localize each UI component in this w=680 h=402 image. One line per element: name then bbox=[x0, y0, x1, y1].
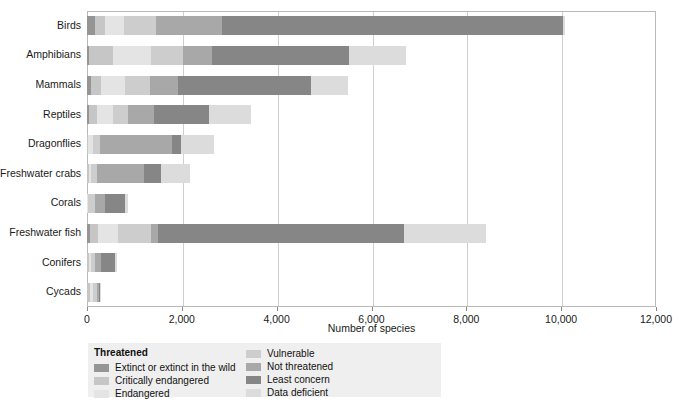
legend-item-label: Least concern bbox=[267, 374, 330, 386]
bar-segment[interactable] bbox=[209, 105, 252, 124]
bar-segment[interactable] bbox=[172, 135, 181, 154]
legend-item-label: Not threatened bbox=[267, 361, 333, 373]
bar-segment[interactable] bbox=[91, 76, 101, 95]
y-axis-label: Cycads bbox=[0, 285, 81, 297]
bar-segment[interactable] bbox=[100, 283, 102, 302]
bar-row[interactable] bbox=[87, 135, 214, 154]
y-axis-label: Freshwater fish bbox=[0, 226, 81, 238]
bar-segment[interactable] bbox=[150, 76, 178, 95]
y-axis-label: Freshwater crabs bbox=[0, 167, 81, 179]
legend-item-label: Extinct or extinct in the wild bbox=[115, 362, 236, 374]
legend-item-label: Data deficient bbox=[267, 387, 328, 399]
bar-segment[interactable] bbox=[95, 194, 104, 213]
bar-segment[interactable] bbox=[154, 105, 209, 124]
bar-segment[interactable] bbox=[563, 16, 565, 35]
legend-item[interactable]: Extinct or extinct in the wild bbox=[94, 361, 254, 374]
legend-item[interactable]: Vulnerable bbox=[246, 347, 436, 360]
y-axis-label: Corals bbox=[0, 196, 81, 208]
legend-swatch-icon bbox=[94, 364, 109, 372]
bar-segment[interactable] bbox=[404, 224, 486, 243]
legend-items-right: VulnerableNot threatenedLeast concernDat… bbox=[246, 347, 436, 399]
x-tick-mark bbox=[466, 307, 467, 311]
bar-segment[interactable] bbox=[95, 16, 105, 35]
bar-segment[interactable] bbox=[124, 16, 156, 35]
bar-segment[interactable] bbox=[118, 224, 151, 243]
bar-row[interactable] bbox=[87, 224, 486, 243]
legend-item[interactable]: Not threatened bbox=[246, 360, 436, 373]
bar-segment[interactable] bbox=[90, 224, 98, 243]
bar-segment[interactable] bbox=[100, 135, 172, 154]
x-tick-mark bbox=[182, 307, 183, 311]
y-axis-label: Reptiles bbox=[0, 108, 81, 120]
bar-segment[interactable] bbox=[97, 105, 113, 124]
bar-segment[interactable] bbox=[151, 224, 158, 243]
bar-row[interactable] bbox=[87, 16, 565, 35]
legend-swatch-icon bbox=[94, 390, 109, 398]
bar-segment[interactable] bbox=[349, 46, 406, 65]
bar-row[interactable] bbox=[87, 283, 101, 302]
y-axis-label: Dragonflies bbox=[0, 137, 81, 149]
bars-layer bbox=[87, 11, 656, 307]
bar-segment[interactable] bbox=[311, 76, 348, 95]
bar-row[interactable] bbox=[87, 76, 348, 95]
bar-segment[interactable] bbox=[101, 76, 125, 95]
bar-segment[interactable] bbox=[89, 105, 98, 124]
y-axis-label: Amphibians bbox=[0, 48, 81, 60]
legend-swatch-icon bbox=[246, 350, 261, 358]
legend-item[interactable]: Critically endangered bbox=[94, 374, 254, 387]
bar-segment[interactable] bbox=[158, 224, 404, 243]
x-tick-mark bbox=[277, 307, 278, 311]
legend: Threatened Extinct or extinct in the wil… bbox=[88, 343, 441, 397]
legend-swatch-icon bbox=[94, 377, 109, 385]
bar-segment[interactable] bbox=[222, 16, 563, 35]
bar-segment[interactable] bbox=[105, 194, 125, 213]
bar-segment[interactable] bbox=[212, 46, 350, 65]
legend-items-left: Extinct or extinct in the wildCritically… bbox=[94, 361, 254, 400]
legend-item[interactable]: Endangered bbox=[94, 387, 254, 400]
legend-swatch-icon bbox=[246, 363, 261, 371]
legend-title: Threatened bbox=[94, 347, 254, 359]
bar-segment[interactable] bbox=[88, 194, 95, 213]
bar-segment[interactable] bbox=[156, 16, 221, 35]
legend-swatch-icon bbox=[246, 389, 261, 397]
x-tick-mark bbox=[561, 307, 562, 311]
bar-segment[interactable] bbox=[183, 46, 211, 65]
bar-segment[interactable] bbox=[93, 135, 100, 154]
bar-segment[interactable] bbox=[151, 46, 183, 65]
legend-column-other: VulnerableNot threatenedLeast concernDat… bbox=[246, 347, 436, 399]
x-tick-mark bbox=[372, 307, 373, 311]
bar-segment[interactable] bbox=[87, 16, 95, 35]
bar-segment[interactable] bbox=[125, 76, 150, 95]
bar-segment[interactable] bbox=[178, 76, 311, 95]
bar-segment[interactable] bbox=[113, 46, 151, 65]
x-axis-title: Number of species bbox=[87, 322, 656, 334]
y-axis-label: Mammals bbox=[0, 78, 81, 90]
bar-segment[interactable] bbox=[89, 46, 113, 65]
bar-segment[interactable] bbox=[161, 164, 190, 183]
legend-item-label: Endangered bbox=[115, 388, 170, 400]
legend-item[interactable]: Least concern bbox=[246, 373, 436, 386]
legend-item-label: Critically endangered bbox=[115, 375, 209, 387]
bar-segment[interactable] bbox=[98, 224, 118, 243]
legend-item[interactable]: Data deficient bbox=[246, 386, 436, 399]
legend-item-label: Vulnerable bbox=[267, 348, 314, 360]
bar-segment[interactable] bbox=[97, 164, 144, 183]
species-threat-status-chart: BirdsAmphibiansMammalsReptilesDragonflie… bbox=[0, 0, 680, 402]
bar-segment[interactable] bbox=[144, 164, 161, 183]
x-tick-mark bbox=[87, 307, 88, 311]
bar-segment[interactable] bbox=[125, 194, 128, 213]
bar-row[interactable] bbox=[87, 164, 190, 183]
legend-swatch-icon bbox=[246, 376, 261, 384]
bar-row[interactable] bbox=[87, 105, 251, 124]
bar-segment[interactable] bbox=[128, 105, 155, 124]
bar-row[interactable] bbox=[87, 253, 117, 272]
bar-segment[interactable] bbox=[113, 105, 128, 124]
y-axis-label: Conifers bbox=[0, 256, 81, 268]
bar-segment[interactable] bbox=[181, 135, 213, 154]
bar-segment[interactable] bbox=[105, 16, 124, 35]
bar-segment[interactable] bbox=[115, 253, 117, 272]
y-axis-labels: BirdsAmphibiansMammalsReptilesDragonflie… bbox=[0, 11, 81, 307]
bar-row[interactable] bbox=[87, 194, 128, 213]
bar-segment[interactable] bbox=[101, 253, 115, 272]
bar-row[interactable] bbox=[87, 46, 406, 65]
